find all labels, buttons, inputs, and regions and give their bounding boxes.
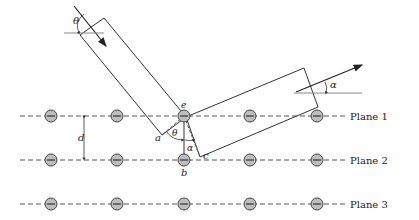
label-alpha-reflected: α [330, 79, 337, 90]
diffraction-diagram: θ α e a θ α c b d Plane 1 Plane 2 Plane … [0, 0, 419, 220]
incident-arrow [74, 6, 106, 46]
label-point-e: e [181, 100, 186, 110]
alpha-arc-inner [185, 140, 194, 141]
label-point-b: b [181, 167, 187, 178]
label-theta-inner: θ [172, 128, 178, 138]
label-alpha-inner: α [187, 143, 193, 153]
label-plane-1: Plane 1 [350, 111, 388, 122]
incident-beam [80, 18, 186, 135]
alpha-arc-reflected [325, 82, 327, 93]
label-theta-incident: θ [73, 15, 79, 26]
label-plane-3: Plane 3 [350, 199, 388, 210]
reflected-arrow [296, 65, 362, 92]
label-spacing-d: d [78, 132, 84, 143]
label-point-c: c [203, 150, 209, 161]
label-plane-2: Plane 2 [350, 155, 388, 166]
label-point-a: a [155, 132, 161, 143]
